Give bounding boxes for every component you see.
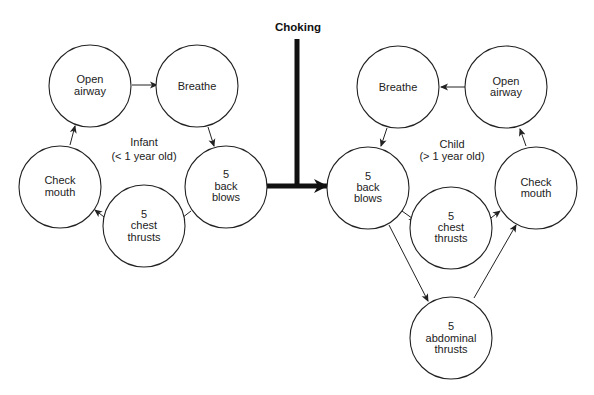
infant-node-breathe: Breathe — [156, 45, 238, 127]
child-node-back-blows: 5 back blows — [327, 147, 409, 229]
choking-flow-diagram: Choking Infant (< 1 year old) Open airwa… — [0, 0, 594, 395]
svg-text:Check: Check — [44, 174, 76, 186]
svg-text:chest: chest — [131, 219, 157, 231]
svg-text:Open: Open — [77, 73, 104, 85]
child-node-breathe: Breathe — [357, 46, 439, 128]
infant-node-back-blows: 5 back blows — [185, 146, 267, 228]
infant-cycle: Infant (< 1 year old) Open airway Breath… — [19, 45, 267, 267]
edge-child-checkmouth-to-open — [520, 129, 526, 146]
svg-text:thrusts: thrusts — [434, 343, 468, 355]
svg-text:thrusts: thrusts — [434, 232, 468, 244]
edge-infant-breathe-to-backblows — [208, 127, 214, 146]
svg-text:airway: airway — [490, 86, 522, 98]
svg-text:Breathe: Breathe — [178, 80, 217, 92]
svg-text:blows: blows — [212, 191, 241, 203]
svg-text:5: 5 — [223, 168, 229, 180]
child-node-open-airway: Open airway — [465, 46, 547, 128]
svg-text:blows: blows — [354, 192, 383, 204]
edge-infant-checkmouth-to-open — [70, 126, 75, 145]
svg-text:Breathe: Breathe — [379, 81, 418, 93]
svg-text:mouth: mouth — [521, 187, 552, 199]
child-node-check-mouth: Check mouth — [495, 147, 577, 229]
child-node-chest-thrusts: 5 chest thrusts — [410, 187, 492, 269]
infant-node-open-airway: Open airway — [49, 45, 131, 127]
child-node-abdominal-thrusts: 5 abdominal thrusts — [410, 297, 492, 379]
infant-age-label: (< 1 year old) — [111, 150, 176, 162]
svg-text:mouth: mouth — [45, 186, 76, 198]
svg-text:thrusts: thrusts — [127, 231, 161, 243]
edge-child-breathe-to-backblows — [381, 128, 387, 146]
infant-label: Infant — [130, 136, 158, 148]
svg-text:5: 5 — [448, 320, 454, 332]
svg-text:airway: airway — [74, 85, 106, 97]
child-label: Child — [439, 138, 464, 150]
child-cycle: Child (> 1 year old) Breathe Open airway… — [327, 46, 577, 379]
infant-node-check-mouth: Check mouth — [19, 146, 101, 228]
diagram-title: Choking — [275, 21, 321, 33]
infant-node-chest-thrusts: 5 chest thrusts — [103, 185, 185, 267]
child-age-label: (> 1 year old) — [419, 150, 484, 162]
